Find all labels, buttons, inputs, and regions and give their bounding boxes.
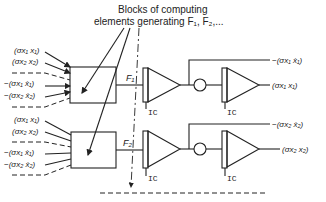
divider-line [131, 28, 139, 187]
block1-input-1: (σx₁ x₁) [14, 46, 40, 55]
block2-output-velocity: −(σx₂ ẋ₂) [272, 120, 303, 129]
block2-input-4: −(σx₂ ẋ₂) [4, 160, 35, 169]
computing-block-1 [70, 67, 116, 103]
block1-input-2: (σx₂ x₂) [12, 57, 39, 66]
integrator-1a: IC [143, 68, 180, 117]
ic-label-1a: IC [148, 108, 158, 117]
block1-input-4: −(σx₂ ẋ₂) [4, 91, 35, 100]
block-row-1: (σx₁ x₁) (σx₂ x₂) −(σx₁ ẋ₁) −(σx₂ ẋ₂) F₁… [4, 46, 302, 117]
coefficient-circle-2 [194, 143, 206, 155]
block2-input-1: (σx₁ x₁) [14, 115, 40, 124]
ic-label-1b: IC [227, 108, 237, 117]
block1-output-position: (σx₁ x₁) [272, 81, 298, 90]
block-row-2: (σx₁ x₁) (σx₂ x₂) −(σx₁ ẋ₁) −(σx₂ ẋ₂) F₂… [4, 115, 309, 183]
analog-computer-diagram: Blocks of computing elements generating … [0, 0, 326, 202]
integrator-2a: IC [143, 131, 180, 183]
ic-label-2b: IC [227, 174, 237, 183]
integrator-2b: IC [222, 131, 259, 183]
caption-pointer-lines [82, 28, 130, 155]
f2-label: F₂ [123, 138, 132, 148]
block1-input-3: −(σx₁ ẋ₁) [4, 79, 34, 88]
f1-label: F₁ [126, 73, 134, 83]
block2-output-position: (σx₂ x₂) [282, 145, 309, 154]
caption-line-1: Blocks of computing [118, 4, 208, 15]
block2-input-3: −(σx₁ ẋ₁) [4, 148, 34, 157]
block1-output-velocity: −(σx₁ ẋ₁) [272, 56, 302, 65]
ic-label-2a: IC [148, 174, 158, 183]
block2-input-2: (σx₂ x₂) [12, 127, 39, 136]
coefficient-circle-1 [194, 79, 206, 91]
integrator-1b: IC [222, 68, 259, 117]
caption-line-2: elements generating F₁, F₂,... [94, 16, 224, 27]
